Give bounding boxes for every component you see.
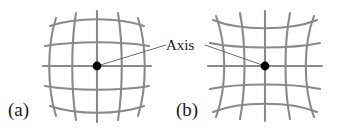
- panel-label-b: (b): [176, 100, 198, 119]
- leader-line-left: [97, 45, 166, 66]
- axis-dot-b: [261, 62, 270, 71]
- axis-annotation-label: Axis: [166, 38, 194, 53]
- distortion-figure: Axis (a) (b): [0, 0, 339, 132]
- figure-canvas: [0, 0, 339, 132]
- panel-label-a: (a): [8, 100, 29, 119]
- axis-dot-a: [93, 62, 102, 71]
